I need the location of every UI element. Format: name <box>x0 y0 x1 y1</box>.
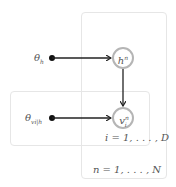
theta-v-label: θvi|h <box>25 112 42 125</box>
node-h: hn <box>112 47 134 69</box>
edges <box>0 0 176 187</box>
node-h-superscript: n <box>124 54 128 61</box>
node-v-superscript: n <box>125 114 129 121</box>
edge-theta-v-to-v <box>49 115 111 121</box>
theta-h-label: θh <box>34 52 44 65</box>
node-v: vni <box>112 107 134 129</box>
edge-theta-h-to-h <box>49 55 111 61</box>
node-v-subscript: i <box>125 121 127 128</box>
theta-h-subscript: h <box>40 58 44 65</box>
theta-v-subscript: vi|h <box>31 118 42 125</box>
